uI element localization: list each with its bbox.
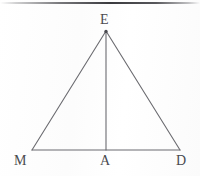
vertex-label-a: A: [100, 154, 110, 168]
segment-right-ed: [106, 31, 180, 150]
vertex-label-d: D: [176, 154, 186, 168]
vertex-dot-e: [104, 30, 107, 33]
vertex-label-m: M: [14, 154, 27, 168]
segment-left-me: [32, 31, 106, 150]
geometry-figure-canvas: E M A D: [0, 0, 200, 176]
vertex-label-e: E: [100, 13, 109, 27]
